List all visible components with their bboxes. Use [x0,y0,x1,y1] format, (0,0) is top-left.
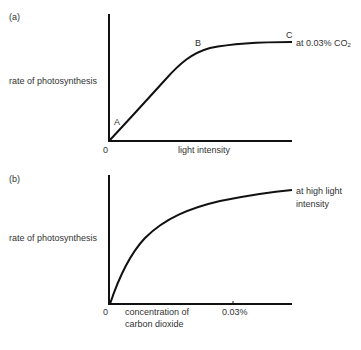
panel-b-x-axis-label-line1: concentration of [125,307,189,318]
panel-b-curve-label-line1: at high light [296,186,342,197]
point-c-label: C [286,30,293,41]
panel-b-curve-label-line2: intensity [296,199,329,210]
point-a-label: A [114,117,120,128]
panel-b-x-tick-label: 0.03% [222,307,248,318]
panel-a-curve-label-subscript: 2 [348,42,351,48]
panel-a-label: (a) [9,12,20,22]
panel-b-curve [110,190,292,304]
point-b-label: B [195,38,201,49]
panel-a-curve [109,42,292,141]
panel-a-curve-label: at 0.03% CO2 [296,38,351,51]
panel-a-x-axis-label: light intensity [178,145,230,156]
panel-b-y-axis-label: rate of photosynthesis [9,233,97,244]
figure-graphics [0,0,361,350]
panel-b-x-axis-label-line2: carbon dioxide [125,319,184,330]
panel-b-label: (b) [9,174,20,184]
panel-b-origin-label: 0 [103,307,108,318]
panel-a-origin-label: 0 [103,145,108,156]
panel-a-curve-label-text: at 0.03% CO [296,38,348,48]
panel-a-y-axis-label: rate of photosynthesis [9,76,97,87]
